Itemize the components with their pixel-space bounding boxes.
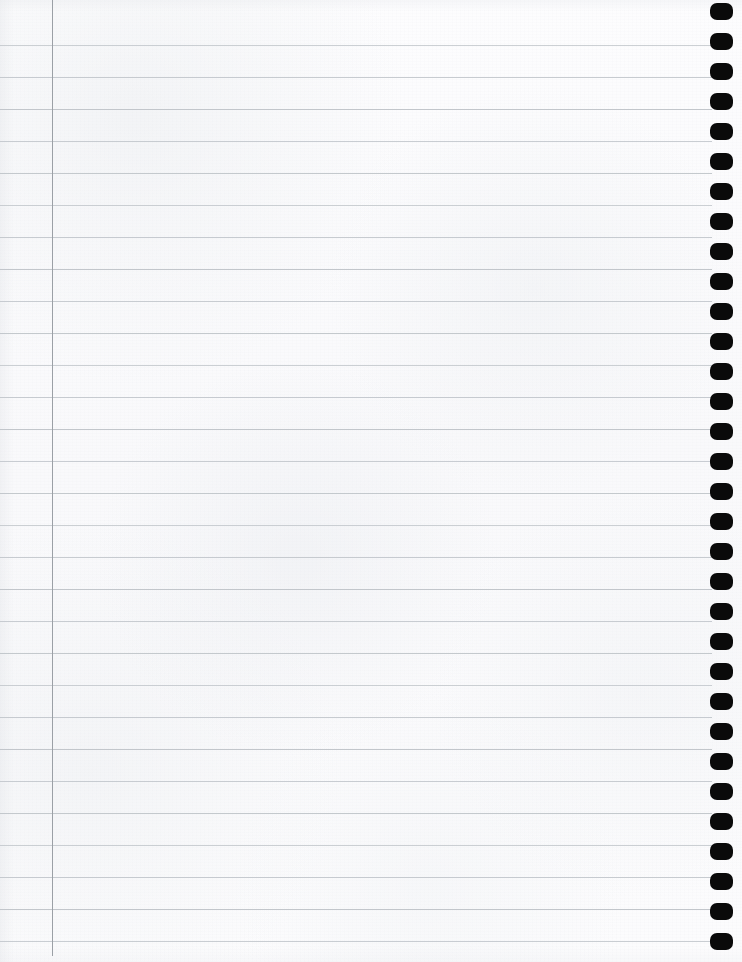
binding-hole [710,603,733,620]
binding-hole [710,903,733,920]
binding-hole [710,183,733,200]
binding-hole [710,273,733,290]
binding-hole [710,243,733,260]
binding-hole [710,543,733,560]
binding-hole [710,513,733,530]
binding-hole [710,693,733,710]
binding-hole [710,753,733,770]
binding-hole [710,123,733,140]
binding-hole [710,33,733,50]
writing-area[interactable] [53,45,712,956]
binding-hole [710,453,733,470]
binding-hole [710,573,733,590]
notebook-page [0,0,742,962]
binding-hole [710,213,733,230]
binding-hole [710,933,733,950]
binding-hole [710,633,733,650]
binding-hole [710,723,733,740]
binding-hole [710,3,733,20]
binding-hole [710,663,733,680]
binding-hole [710,783,733,800]
binding-hole [710,63,733,80]
binding-hole [710,363,733,380]
binding-hole [710,873,733,890]
binding-hole [710,813,733,830]
binding-hole [710,843,733,860]
binding-hole [710,153,733,170]
binding-hole [710,303,733,320]
binding-hole [710,483,733,500]
binding-hole [710,423,733,440]
binding-hole [710,93,733,110]
binding-hole [710,393,733,410]
binding-hole [710,333,733,350]
